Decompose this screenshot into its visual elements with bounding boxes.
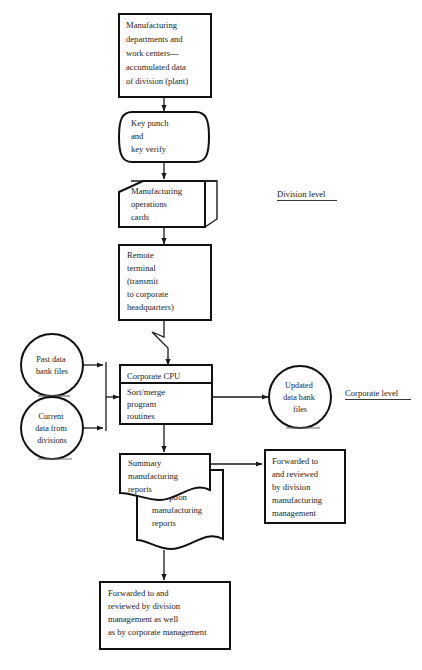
node-past-data-circle — [21, 334, 83, 396]
connector-transmission-jagged — [152, 320, 168, 365]
flowchart-diagram: Manufacturing departments and work cente… — [0, 0, 422, 670]
node-source-text: Manufacturing departments and work cente… — [126, 20, 188, 86]
node-current-data: Current data from divisions — [21, 397, 83, 459]
node-current-data-text: Current data from divisions — [35, 412, 69, 445]
node-corporate-review: Forwarded to and reviewed by division ma… — [100, 582, 230, 649]
label-division-level-text: Division level — [277, 189, 326, 199]
label-corporate-level: Corporate level — [345, 388, 411, 400]
node-updated-data: Updated data bank files — [269, 366, 331, 428]
node-cards: Manufacturing operations cards — [119, 181, 217, 227]
node-corporate-cpu: Corporate CPU Sort/merge program routine… — [120, 365, 212, 424]
node-source: Manufacturing departments and work cente… — [119, 14, 211, 97]
node-past-data: Past data bank files — [21, 334, 83, 396]
node-cards-depth-panel — [205, 181, 217, 227]
node-remote-terminal: Remote terminal (transmit to corporate h… — [119, 245, 211, 320]
label-corporate-level-text: Corporate level — [345, 388, 399, 398]
node-cpu-header-text: Corporate CPU — [127, 371, 181, 381]
node-division-review: Forwarded to and reviewed by division ma… — [265, 450, 345, 523]
node-keypunch: Key punch and key verify — [119, 112, 209, 162]
label-division-level: Division level — [277, 189, 337, 201]
flowchart-canvas: Manufacturing departments and work cente… — [0, 0, 422, 670]
